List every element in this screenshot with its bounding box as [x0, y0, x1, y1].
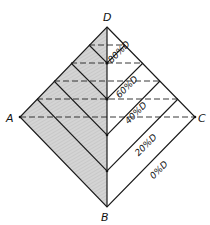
- vertex-label-C: C: [198, 112, 206, 125]
- pct-label-40: 40%D: [123, 100, 149, 126]
- vertex-label-B: B: [101, 211, 109, 224]
- pct-label-80: 80%D: [106, 39, 132, 65]
- pct-label-20: 20%D: [133, 132, 159, 158]
- diamond-diagram: D A C B 80%D 60%D 40%D 20%D 0%D: [0, 0, 210, 225]
- vertex-label-A: A: [5, 112, 14, 125]
- pct-label-60: 60%D: [114, 74, 140, 100]
- vertex-label-D: D: [103, 11, 111, 24]
